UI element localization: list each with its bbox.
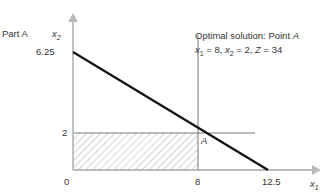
x-tick-0: 0: [64, 176, 69, 187]
feasible-region: [73, 133, 198, 170]
x-axis-arrow-icon: [312, 165, 321, 175]
part-label: Part A: [2, 28, 28, 39]
x-tick-12-5: 12.5: [262, 176, 281, 187]
y-axis-arrow-icon: [68, 13, 78, 22]
diagram: Part A x2 6.25 2 0 8 12.5 x1 A Optimal s…: [0, 0, 328, 194]
y-axis-label: x2: [52, 28, 61, 41]
x-tick-8: 8: [195, 176, 200, 187]
y-tick-6-25: 6.25: [36, 46, 55, 57]
point-a-label: A: [201, 135, 207, 146]
y-tick-2: 2: [62, 127, 67, 138]
x-axis-label: x1: [310, 178, 319, 191]
optimal-solution-title: Optimal solution: Point A: [195, 30, 299, 41]
optimal-solution-values: x1 = 8, x2 = 2, Z = 34: [195, 44, 282, 57]
